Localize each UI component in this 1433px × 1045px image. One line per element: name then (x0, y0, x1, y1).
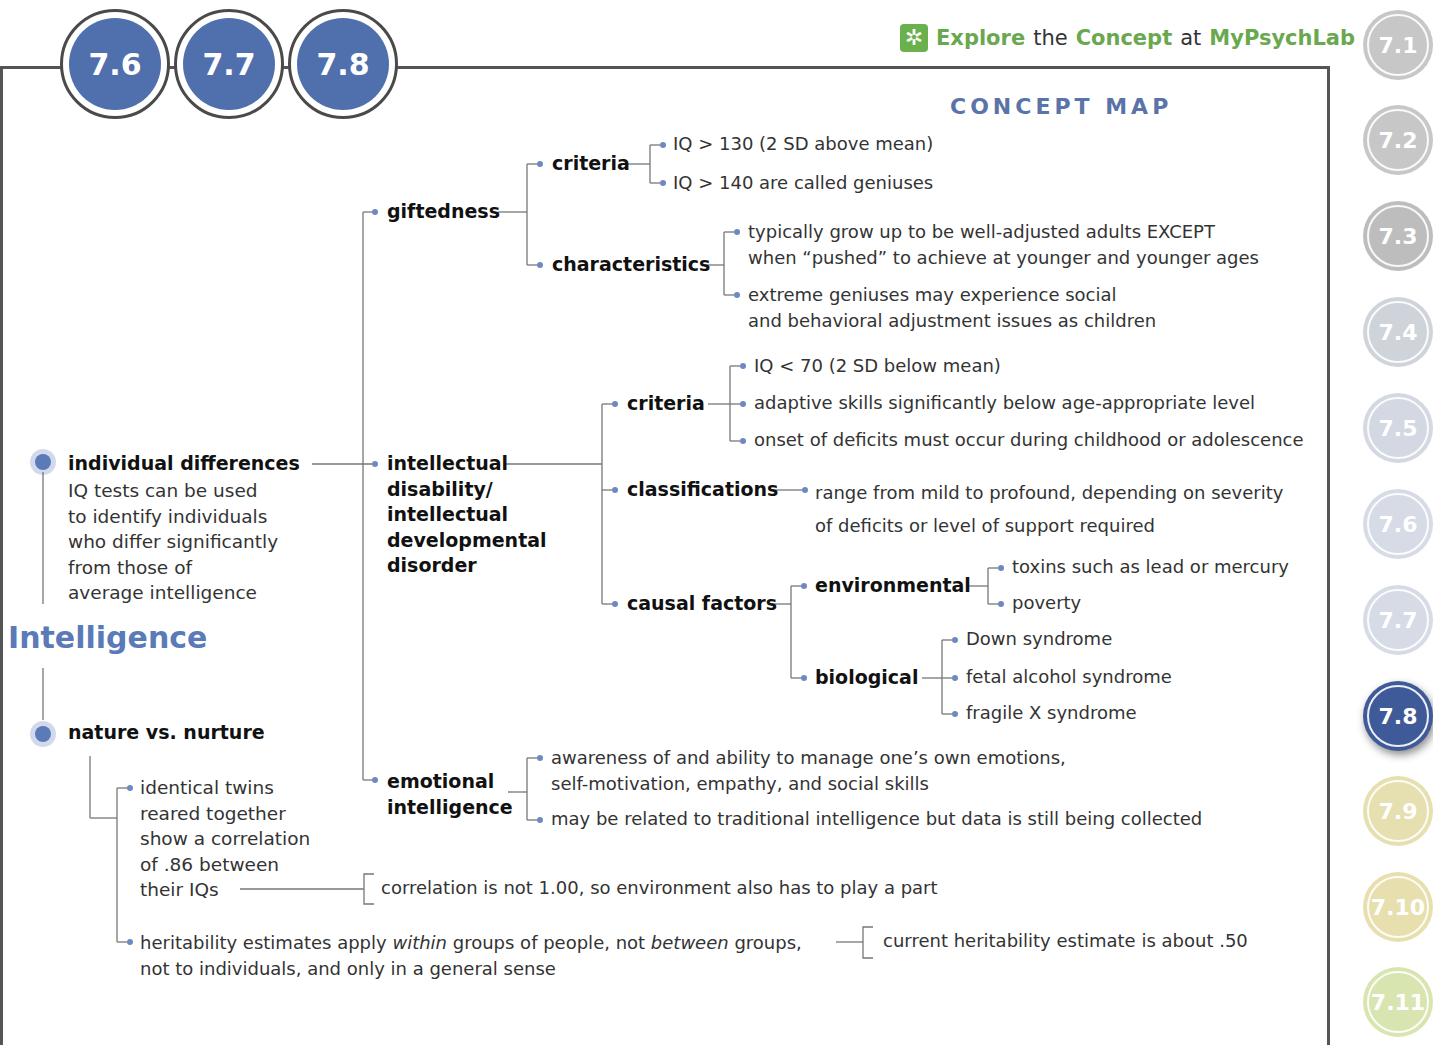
twins-line: their IQs (140, 877, 310, 903)
classifications-label: classifications (627, 478, 778, 500)
characteristic-item: typically grow up to be well-adjusted ad… (748, 219, 1259, 271)
individual-differences-description: IQ tests can be used to identify individ… (68, 478, 278, 606)
characteristic-line: extreme geniuses may experience social (748, 282, 1156, 308)
id-criterion: IQ < 70 (2 SD below mean) (754, 355, 1001, 376)
emphasis-between: between (651, 932, 729, 953)
label-line: disability/ (387, 477, 547, 503)
label-line: disorder (387, 553, 547, 579)
emotional-intelligence-item: awareness of and ability to manage one’s… (551, 745, 1066, 797)
text-span: heritability estimates apply (140, 932, 392, 953)
description-line: to identify individuals (68, 504, 278, 530)
text-span: groups of people, not (447, 932, 651, 953)
biological-factor: Down syndrome (966, 628, 1112, 649)
twins-line: show a correlation (140, 826, 310, 852)
id-criterion: adaptive skills significantly below age-… (754, 392, 1255, 413)
twins-line: identical twins (140, 775, 310, 801)
nature-vs-nurture-label: nature vs. nurture (68, 721, 265, 743)
description-line: IQ tests can be used (68, 478, 278, 504)
emotional-intelligence-item: may be related to traditional intelligen… (551, 808, 1202, 829)
characteristic-line: and behavioral adjustment issues as chil… (748, 308, 1156, 334)
label-line: developmental (387, 528, 547, 554)
label-line: emotional (387, 768, 513, 794)
individual-differences-node-dot (35, 454, 51, 470)
description-line: who differ significantly (68, 529, 278, 555)
label-line: intelligence (387, 794, 513, 820)
heritability-line-2: not to individuals, and only in a genera… (140, 956, 802, 982)
identical-twins-text: identical twins reared together show a c… (140, 775, 310, 903)
characteristic-item: extreme geniuses may experience social a… (748, 282, 1156, 334)
heritability-estimate-note: current heritability estimate is about .… (883, 930, 1248, 951)
root-concept-intelligence: Intelligence (8, 620, 207, 655)
heritability-line-1: heritability estimates apply within grou… (140, 930, 802, 956)
id-criteria-label: criteria (627, 392, 705, 414)
description-line: from those of (68, 555, 278, 581)
giftedness-criterion: IQ > 140 are called geniuses (673, 172, 933, 193)
classifications-text: range from mild to profound, depending o… (815, 476, 1283, 542)
characteristic-line: typically grow up to be well-adjusted ad… (748, 219, 1259, 245)
classifications-line: of deficits or level of support required (815, 509, 1283, 542)
ei-line: self-motivation, empathy, and social ski… (551, 771, 1066, 797)
giftedness-label: giftedness (387, 200, 500, 222)
giftedness-criterion: IQ > 130 (2 SD above mean) (673, 133, 933, 154)
individual-differences-label: individual differences (68, 452, 300, 474)
biological-factor: fragile X syndrome (966, 702, 1137, 723)
intellectual-disability-label: intellectual disability/ intellectual de… (387, 451, 547, 579)
heritability-text: heritability estimates apply within grou… (140, 930, 802, 982)
characteristic-line: when “pushed” to achieve at younger and … (748, 245, 1259, 271)
biological-factor: fetal alcohol syndrome (966, 666, 1172, 687)
ei-line: awareness of and ability to manage one’s… (551, 745, 1066, 771)
nature-vs-nurture-node-dot (35, 726, 51, 742)
environmental-factor: poverty (1012, 592, 1081, 613)
label-line: intellectual (387, 502, 547, 528)
twins-line: of .86 between (140, 852, 310, 878)
biological-label: biological (815, 666, 918, 688)
classifications-line: range from mild to profound, depending o… (815, 476, 1283, 509)
environmental-factor: toxins such as lead or mercury (1012, 556, 1289, 577)
causal-factors-label: causal factors (627, 592, 777, 614)
twins-correlation-note: correlation is not 1.00, so environment … (381, 877, 938, 898)
description-line: average intelligence (68, 580, 278, 606)
emphasis-within: within (392, 932, 447, 953)
giftedness-criteria-label: criteria (552, 152, 630, 174)
emotional-intelligence-label: emotional intelligence (387, 768, 513, 820)
twins-line: reared together (140, 801, 310, 827)
text-span: groups, (729, 932, 802, 953)
label-line: intellectual (387, 451, 547, 477)
id-criterion: onset of deficits must occur during chil… (754, 429, 1304, 450)
environmental-label: environmental (815, 574, 971, 596)
characteristics-label: characteristics (552, 253, 710, 275)
